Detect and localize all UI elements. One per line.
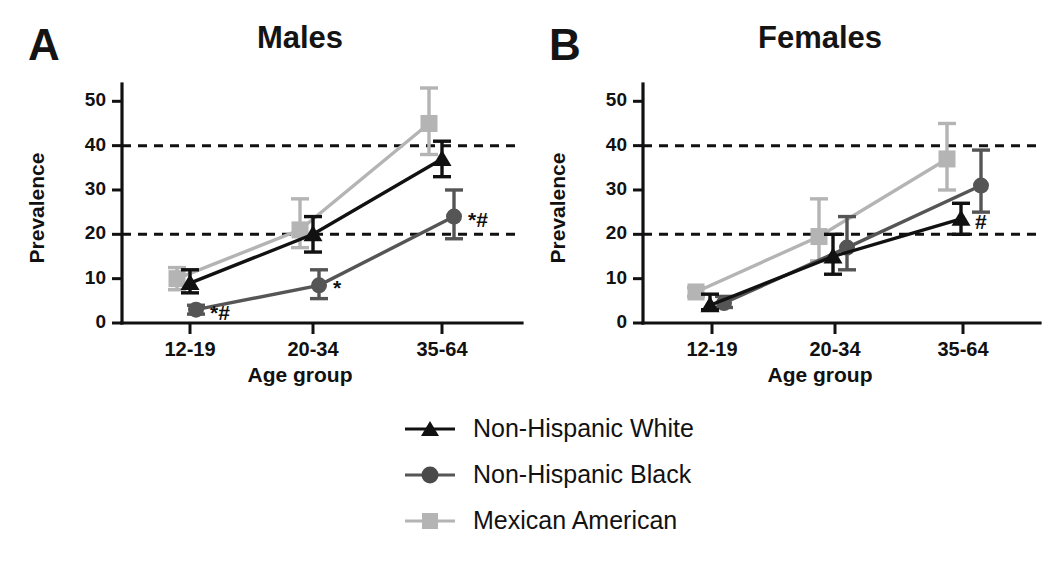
significance-annotation: # (975, 210, 987, 233)
significance-annotation: * (333, 276, 342, 299)
marker-square-icon (421, 115, 438, 132)
panel-title-males: Males (257, 20, 343, 55)
y-tick-label: 30 (85, 178, 106, 199)
panel-letter-a: A (28, 20, 60, 69)
y-axis-label-males: Prevalence (25, 153, 48, 264)
panel-title-females: Females (758, 20, 882, 55)
y-tick-label: 20 (606, 222, 627, 243)
marker-circle-icon (311, 277, 327, 293)
x-tick-label: 12-19 (686, 338, 737, 360)
marker-circle-icon (446, 209, 462, 225)
y-tick-label: 20 (85, 222, 106, 243)
legend-label-non-hispanic-white: Non-Hispanic White (473, 414, 694, 442)
x-tick-label: 35-64 (937, 338, 989, 360)
y-tick-label: 30 (606, 178, 627, 199)
significance-annotation: *# (210, 301, 230, 324)
marker-square-icon (688, 283, 705, 300)
x-tick-label: 12-19 (164, 338, 215, 360)
x-tick-label: 35-64 (416, 338, 468, 360)
marker-square-icon (811, 228, 828, 245)
x-axis-label-males: Age group (248, 363, 353, 386)
y-tick-label: 40 (85, 134, 106, 155)
marker-square-icon (939, 150, 956, 167)
marker-square-icon (169, 270, 186, 287)
x-tick-label: 20-34 (287, 338, 339, 360)
marker-circle-icon (188, 302, 204, 318)
y-tick-label: 0 (616, 311, 627, 332)
legend-label-non-hispanic-black: Non-Hispanic Black (473, 460, 692, 488)
y-tick-label: 50 (606, 89, 627, 110)
y-tick-label: 10 (606, 267, 627, 288)
y-tick-label: 40 (606, 134, 627, 155)
significance-annotation: *# (468, 208, 488, 231)
y-tick-label: 0 (95, 311, 106, 332)
figure-canvas: A Males Prevalence Age group 01020304050… (0, 0, 1054, 563)
panel-letter-b: B (549, 20, 581, 69)
y-axis-label-females: Prevalence (546, 153, 569, 264)
x-axis-label-females: Age group (768, 363, 873, 386)
y-tick-label: 50 (85, 89, 106, 110)
marker-circle-icon (973, 178, 989, 194)
y-tick-label: 10 (85, 267, 106, 288)
legend-label-mexican-american: Mexican American (473, 506, 677, 534)
x-tick-label: 20-34 (809, 338, 861, 360)
